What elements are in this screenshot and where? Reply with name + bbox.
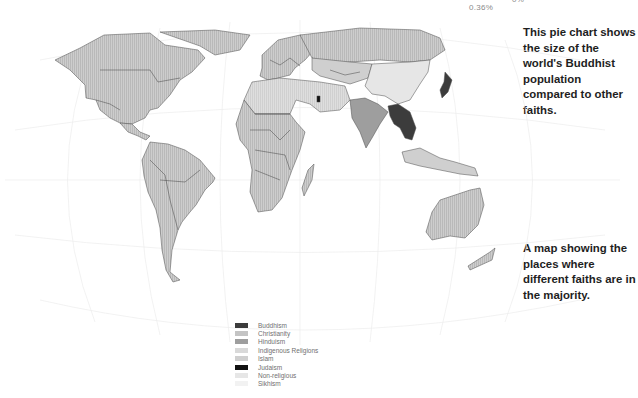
region-japan (440, 72, 452, 98)
legend-swatch (235, 381, 248, 386)
region-southeast-asia (388, 104, 416, 140)
legend-label: Hinduism (258, 338, 285, 345)
legend-swatch (235, 373, 248, 378)
region-russia (300, 28, 445, 64)
region-central-america (120, 123, 150, 140)
legend-item: Buddhism (235, 321, 318, 329)
region-indonesia (402, 148, 478, 176)
legend-swatch (235, 323, 248, 328)
legend-item: Sikhism (235, 380, 318, 388)
legend-item: Hinduism (235, 338, 318, 346)
legend-swatch (235, 356, 248, 361)
region-india (350, 98, 388, 148)
legend-label: Sikhism (258, 380, 281, 387)
legend-swatch (235, 348, 248, 353)
region-north-america (55, 33, 205, 124)
legend-item: Non-religious (235, 371, 318, 379)
legend-label: Judaism (258, 364, 282, 371)
legend-swatch (235, 331, 248, 336)
region-central-asia (312, 58, 372, 84)
legend-label: Islam (258, 355, 274, 362)
legend-label: Non-religious (258, 372, 296, 379)
region-north-africa-middle-east (244, 78, 350, 114)
region-new-zealand (468, 248, 495, 270)
legend-swatch (235, 339, 248, 344)
region-australia (426, 188, 484, 240)
region-china (365, 60, 430, 104)
legend-item: Judaism (235, 363, 318, 371)
legend-swatch (235, 365, 248, 370)
legend-item: Indigenous Religions (235, 346, 318, 354)
legend-label: Buddhism (258, 322, 287, 329)
map-legend: BuddhismChristianityHinduismIndigenous R… (235, 321, 318, 388)
land-masses (55, 28, 495, 282)
legend-item: Islam (235, 355, 318, 363)
region-israel (317, 96, 320, 102)
legend-label: Christianity (258, 330, 290, 337)
legend-item: Christianity (235, 329, 318, 337)
legend-label: Indigenous Religions (258, 347, 318, 354)
region-sub-saharan-africa (236, 100, 305, 212)
